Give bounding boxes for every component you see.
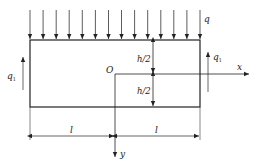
distributed-load-arrows — [30, 10, 200, 39]
load-q-label: q — [204, 14, 210, 24]
half-height-bottom-label: h/2 — [137, 86, 151, 96]
shear-left-label: q1 — [7, 71, 16, 82]
x-axis-label: x — [237, 62, 242, 72]
y-axis-label: y — [119, 149, 126, 159]
shear-left-subscript: 1 — [13, 76, 16, 82]
beam-diagram: q q1 q1 O x y h/2 h/2 l l — [0, 0, 256, 165]
half-height-top-label: h/2 — [137, 54, 151, 64]
origin-label: O — [106, 65, 114, 75]
length-right-label: l — [155, 125, 158, 135]
length-left-label: l — [70, 125, 73, 135]
shear-right-subscript: 1 — [219, 57, 222, 63]
shear-right-label: q1 — [213, 52, 222, 63]
diagram-canvas: q q1 q1 O x y h/2 h/2 l l — [0, 0, 256, 165]
